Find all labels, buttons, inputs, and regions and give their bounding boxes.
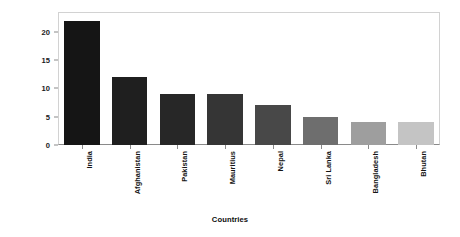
x-tick-label: Bhutan <box>419 151 428 177</box>
x-tick-label: Pakistan <box>180 151 189 182</box>
x-tick-label: Mauritius <box>228 151 237 184</box>
y-tick-label: 20 <box>42 27 50 36</box>
x-tick-label: Bangladesh <box>371 151 380 193</box>
x-tick-mark <box>82 145 83 149</box>
y-tick-label: 5 <box>46 112 50 121</box>
y-axis-ticks: 05101520 <box>0 0 58 237</box>
bar-pakistan <box>160 94 195 145</box>
bar-sri-lanka <box>303 117 338 145</box>
x-tick-label: Nepal <box>276 151 285 171</box>
x-axis-title: Countries <box>0 215 460 224</box>
bar-afghanistan <box>112 77 147 145</box>
x-tick-mark <box>273 145 274 149</box>
x-tick-mark <box>130 145 131 149</box>
x-tick-mark <box>416 145 417 149</box>
x-axis-labels: IndiaAfghanistanPakistanMauritiusNepalSr… <box>58 145 440 215</box>
bar-india <box>64 21 99 146</box>
x-tick-label: Afghanistan <box>133 151 142 194</box>
x-tick-label: India <box>85 151 94 169</box>
bars-layer <box>58 12 440 145</box>
bar-bangladesh <box>351 122 386 145</box>
y-tick-label: 10 <box>42 84 50 93</box>
x-tick-mark <box>225 145 226 149</box>
x-tick-label: Sri Lanka <box>324 151 333 185</box>
bar-nepal <box>255 105 290 145</box>
x-tick-mark <box>177 145 178 149</box>
bar-bhutan <box>398 122 433 145</box>
y-tick-label: 15 <box>42 56 50 65</box>
x-tick-mark <box>368 145 369 149</box>
bar-chart: Number of Ethnic Groups 05101520 IndiaAf… <box>0 0 460 237</box>
bar-mauritius <box>207 94 242 145</box>
y-tick-label: 0 <box>46 141 50 150</box>
x-tick-mark <box>321 145 322 149</box>
